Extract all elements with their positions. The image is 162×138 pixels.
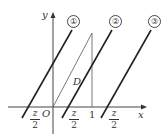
line-1 bbox=[22, 30, 72, 118]
fraction-numerator: z bbox=[69, 109, 79, 118]
fraction-z-over-2-b: z 2 bbox=[109, 109, 119, 130]
tick-one-label: 1 bbox=[89, 110, 95, 120]
triangle-hypotenuse bbox=[53, 33, 92, 107]
fraction-denominator: 2 bbox=[109, 121, 119, 130]
line-1-label: ① bbox=[67, 15, 80, 28]
region-label: D bbox=[73, 77, 81, 87]
y-axis-label: y bbox=[42, 10, 48, 20]
diagram: y x O D 1 ① ② ③ z 2 z 2 z 2 bbox=[0, 0, 162, 138]
origin-label: O bbox=[42, 109, 50, 119]
y-axis-arrow-icon bbox=[51, 12, 56, 18]
line-3 bbox=[101, 30, 151, 118]
line-2-label: ② bbox=[109, 15, 122, 28]
fraction-numerator: z bbox=[30, 109, 40, 118]
fraction-numerator: z bbox=[109, 109, 119, 118]
fraction-denominator: 2 bbox=[30, 121, 40, 130]
x-axis-label: x bbox=[138, 110, 144, 120]
fraction-neg-z-over-2: z 2 bbox=[30, 109, 40, 130]
line-3-label: ③ bbox=[148, 15, 161, 28]
fraction-denominator: 2 bbox=[69, 121, 79, 130]
fraction-z-over-2-a: z 2 bbox=[69, 109, 79, 130]
